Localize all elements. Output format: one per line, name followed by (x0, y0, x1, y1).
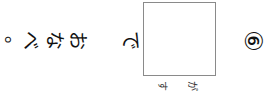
sentence-period: 。 (0, 34, 22, 56)
answer-box[interactable] (143, 2, 216, 76)
question-number: ⑥ (240, 28, 266, 54)
sentence-char-1: お (65, 29, 87, 51)
sentence-char-de: で (118, 29, 140, 51)
furigana-2: が (185, 80, 197, 92)
furigana-1: す (155, 80, 167, 92)
sentence-char-2: な (42, 29, 64, 51)
